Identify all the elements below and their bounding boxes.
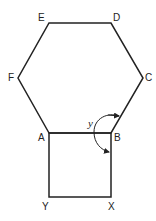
label-d: D [113, 13, 120, 23]
square [49, 133, 111, 197]
label-angle-y: y [88, 118, 93, 128]
label-f: F [8, 73, 14, 83]
diagram-canvas [0, 0, 156, 221]
label-e: E [38, 13, 45, 23]
hexagon [18, 23, 143, 133]
label-c: C [145, 73, 152, 83]
label-a: A [38, 133, 45, 143]
label-y: Y [42, 202, 49, 212]
label-b: B [114, 133, 121, 143]
label-x: X [108, 202, 115, 212]
